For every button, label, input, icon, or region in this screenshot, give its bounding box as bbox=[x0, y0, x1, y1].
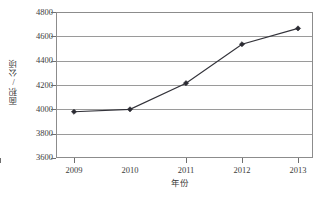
y-tick-label-4600: 4600 bbox=[21, 32, 53, 41]
y-tick-label-4800: 4800 bbox=[21, 8, 53, 17]
x-tick-mark-2010 bbox=[0, 158, 1, 163]
x-tick-label-2011: 2011 bbox=[164, 165, 208, 175]
y-axis-title: 面积/公顷 bbox=[7, 52, 20, 112]
line-chart: 面积/公顷 4800 4600 4400 4200 4000 3800 3600… bbox=[0, 0, 326, 203]
y-tick-label-4400: 4400 bbox=[21, 56, 53, 65]
x-tick-mark-2013 bbox=[298, 158, 299, 163]
x-tick-mark-2012 bbox=[242, 158, 243, 163]
y-tick-label-4200: 4200 bbox=[21, 81, 53, 90]
gridline-4000 bbox=[57, 109, 312, 110]
plot-area bbox=[56, 12, 313, 158]
x-tick-label-2009: 2009 bbox=[52, 165, 96, 175]
x-tick-label-2013: 2013 bbox=[276, 165, 320, 175]
gridline-3800 bbox=[57, 134, 312, 135]
x-axis-title: 年份 bbox=[0, 178, 326, 188]
y-tick-label-3800: 3800 bbox=[21, 129, 53, 138]
gridline-4200 bbox=[57, 85, 312, 86]
y-axis-tick-labels: 4800 4600 4400 4200 4000 3800 3600 bbox=[20, 0, 53, 203]
x-tick-mark-2011 bbox=[186, 158, 187, 163]
gridline-4400 bbox=[57, 61, 312, 62]
x-tick-mark-2009 bbox=[74, 158, 75, 163]
x-tick-label-2012: 2012 bbox=[220, 165, 264, 175]
y-tick-mark-3600 bbox=[51, 158, 56, 159]
y-tick-label-4000: 4000 bbox=[21, 105, 53, 114]
y-tick-label-3600: 3600 bbox=[21, 153, 53, 162]
x-tick-label-2010: 2010 bbox=[108, 165, 152, 175]
gridline-4600 bbox=[57, 36, 312, 37]
